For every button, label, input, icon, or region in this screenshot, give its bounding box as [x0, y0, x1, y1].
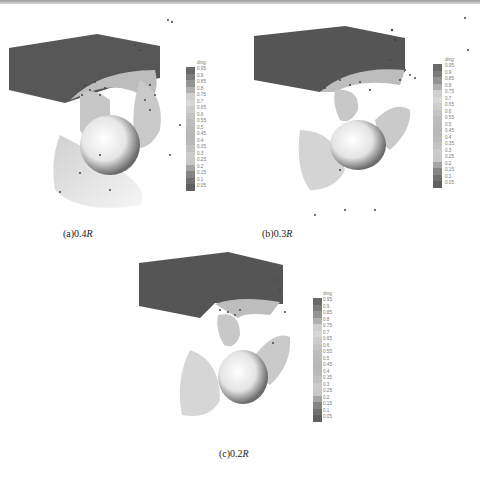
colorbar-b	[433, 64, 442, 188]
colorbar-tick-label: 0.75	[197, 92, 206, 99]
colorbar-a	[186, 67, 195, 191]
caption-b: (b)0.3R	[262, 228, 292, 239]
colorbar-tick-label: 0.45	[323, 362, 332, 369]
panel-b: dmg 0.950.90.850.80.750.70.650.60.550.50…	[240, 0, 480, 240]
colorbar-labels-c: 0.950.90.850.80.750.70.650.60.550.50.450…	[323, 297, 332, 421]
propeller-render-b	[240, 0, 480, 225]
colorbar-tick-label: 0.25	[445, 154, 454, 161]
colorbar-labels-b: 0.950.90.850.80.750.70.650.60.550.50.450…	[445, 63, 454, 187]
colorbar-tick-label: 0.55	[197, 118, 206, 125]
colorbar-tick-label: 0.95	[445, 63, 454, 70]
colorbar-tick-label: 0.85	[197, 79, 206, 86]
panel-c: dmg 0.950.90.850.80.750.70.650.60.550.50…	[120, 240, 360, 480]
caption-c: (c)0.2R	[219, 448, 249, 459]
colorbar-segment	[186, 184, 195, 191]
colorbar-tick-label: 0.85	[323, 310, 332, 317]
colorbar-tick-label: 0.65	[323, 336, 332, 343]
colorbar-tick-label: 0.05	[323, 414, 332, 421]
colorbar-tick-label: 0.75	[323, 323, 332, 330]
colorbar-tick-label: 0.25	[197, 157, 206, 164]
colorbar-tick-label: 0.45	[197, 131, 206, 138]
colorbar-tick-label: 0.15	[323, 401, 332, 408]
colorbar-tick-label: 0.45	[445, 128, 454, 135]
colorbar-title-a: dmg	[197, 60, 206, 65]
colorbar-tick-label: 0.55	[323, 349, 332, 356]
colorbar-segment	[433, 181, 442, 188]
colorbar-tick-label: 0.65	[445, 102, 454, 109]
colorbar-tick-label: 0.75	[445, 89, 454, 96]
colorbar-tick-label: 0.35	[323, 375, 332, 382]
colorbar-tick-label: 0.95	[323, 297, 332, 304]
colorbar-tick-label: 0.65	[197, 105, 206, 112]
colorbar-tick-label: 0.15	[445, 167, 454, 174]
colorbar-c	[313, 298, 322, 422]
colorbar-title-b: dmg	[445, 57, 454, 62]
colorbar-labels-a: 0.950.90.850.80.750.70.650.60.550.50.450…	[197, 66, 206, 190]
colorbar-title-c: dmg	[323, 291, 332, 296]
colorbar-tick-label: 0.95	[197, 66, 206, 73]
colorbar-tick-label: 0.25	[323, 388, 332, 395]
colorbar-tick-label: 0.55	[445, 115, 454, 122]
panel-a: dmg 0.950.90.850.80.750.70.650.60.550.50…	[0, 0, 240, 240]
colorbar-tick-label: 0.35	[445, 141, 454, 148]
colorbar-tick-label: 0.15	[197, 170, 206, 177]
colorbar-tick-label: 0.05	[197, 183, 206, 190]
colorbar-tick-label: 0.85	[445, 76, 454, 83]
colorbar-tick-label: 0.05	[445, 180, 454, 187]
colorbar-segment	[313, 415, 322, 422]
colorbar-tick-label: 0.35	[197, 144, 206, 151]
caption-a: (a)0.4R	[63, 228, 93, 239]
